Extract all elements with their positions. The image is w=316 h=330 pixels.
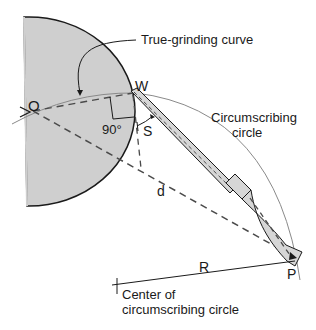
label-d: d bbox=[157, 183, 165, 199]
label-s: S bbox=[143, 123, 152, 139]
label-circle: circle bbox=[232, 125, 262, 140]
label-center-line1: Center of bbox=[122, 287, 176, 302]
dashed-perpendicular bbox=[133, 95, 141, 168]
label-point-o: O bbox=[28, 97, 40, 114]
grinding-wheel bbox=[24, 17, 135, 206]
label-true-grinding-curve: True-grinding curve bbox=[141, 32, 253, 47]
label-r: R bbox=[199, 259, 209, 275]
label-circumscribing: Circumscribing bbox=[211, 110, 297, 125]
label-point-w: W bbox=[135, 78, 149, 94]
label-point-p: P bbox=[287, 266, 296, 282]
label-angle-90: 90° bbox=[102, 122, 122, 137]
grinding-diagram: True-grinding curve W O 90° S Circumscri… bbox=[0, 0, 316, 330]
label-center-line2: circumscribing circle bbox=[122, 302, 239, 317]
